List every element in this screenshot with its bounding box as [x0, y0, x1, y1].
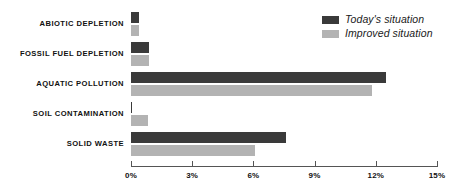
- bar-today: [131, 42, 149, 53]
- bar-improved: [131, 55, 149, 66]
- category-label: AQUATIC POLLUTION: [0, 79, 124, 88]
- category-label: FOSSIL FUEL DEPLETION: [0, 49, 124, 58]
- category-axis: ABIOTIC DEPLETIONFOSSIL FUEL DEPLETIONAQ…: [0, 8, 124, 158]
- x-axis-line: [131, 166, 438, 167]
- x-axis-tick: [437, 161, 438, 166]
- bar-improved: [131, 115, 148, 126]
- x-axis-tick-label: 9%: [309, 171, 321, 180]
- bar-today: [131, 132, 286, 143]
- x-axis-tick: [131, 161, 132, 166]
- bar-improved: [131, 85, 372, 96]
- bar-today: [131, 102, 132, 113]
- x-axis-tick: [315, 161, 316, 166]
- category-label: ABIOTIC DEPLETION: [0, 19, 124, 28]
- x-axis-tick-label: 3%: [186, 171, 198, 180]
- bar-chart: Today's situation Improved situation ABI…: [0, 0, 454, 194]
- bar-improved: [131, 145, 255, 156]
- plot-area: [131, 8, 437, 158]
- x-axis-tick-label: 0%: [125, 171, 137, 180]
- x-axis-tick-label: 15%: [429, 171, 446, 180]
- category-label: SOLID WASTE: [0, 139, 124, 148]
- bar-today: [131, 72, 386, 83]
- category-label: SOIL CONTAMINATION: [0, 109, 124, 118]
- x-axis-tick-label: 12%: [367, 171, 384, 180]
- x-axis-tick-label: 6%: [247, 171, 259, 180]
- bar-improved: [131, 25, 139, 36]
- x-axis-tick: [192, 161, 193, 166]
- bar-today: [131, 12, 139, 23]
- x-axis-tick: [253, 161, 254, 166]
- x-axis-tick: [376, 161, 377, 166]
